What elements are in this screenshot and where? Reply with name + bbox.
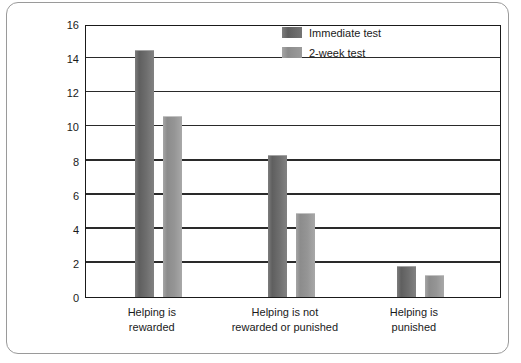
x-label-line: Helping is: [92, 305, 212, 320]
legend-item-immediate-test: Immediate test: [282, 24, 402, 41]
chart-legend: Immediate test2-week test: [282, 24, 402, 64]
x-label-line: punished: [354, 320, 474, 335]
y-tick-8: 8: [53, 156, 79, 168]
legend-item-two-week-test: 2-week test: [282, 44, 402, 61]
figure-frame: Mean number of tokens donated 1614121086…: [6, 2, 509, 354]
x-axis-label-group-2: Helping is notrewarded or punished: [195, 305, 375, 334]
legend-swatch-icon: [282, 47, 302, 58]
y-tick-16: 16: [53, 19, 79, 31]
y-tick-6: 6: [53, 190, 79, 202]
x-axis-label-group-1: Helping isrewarded: [92, 305, 212, 334]
y-tick-14: 14: [53, 53, 79, 65]
bar-immediate-group-2: [268, 155, 287, 297]
y-tick-4: 4: [53, 224, 79, 236]
x-label-line: rewarded: [92, 320, 212, 335]
bar-two-week-group-3: [425, 275, 444, 297]
y-tick-0: 0: [53, 292, 79, 304]
plot-area: [85, 25, 501, 298]
y-tick-2: 2: [53, 258, 79, 270]
legend-swatch-icon: [282, 27, 302, 38]
bar-immediate-group-3: [397, 266, 416, 297]
bar-immediate-group-1: [135, 50, 154, 297]
y-tick-12: 12: [53, 87, 79, 99]
bar-two-week-group-2: [296, 213, 315, 297]
x-axis-label-group-3: Helping ispunished: [354, 305, 474, 334]
x-label-line: Helping is: [354, 305, 474, 320]
y-tick-10: 10: [53, 121, 79, 133]
x-label-line: rewarded or punished: [195, 320, 375, 335]
y-axis-tick-labels: 1614121086420: [51, 25, 79, 298]
legend-label: 2-week test: [309, 47, 365, 59]
x-label-line: Helping is not: [195, 305, 375, 320]
legend-label: Immediate test: [309, 27, 381, 39]
bar-two-week-group-1: [163, 116, 182, 297]
